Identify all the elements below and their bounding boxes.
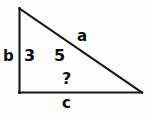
triangle-shape [0, 0, 151, 116]
label-value-3: 3 [24, 48, 35, 64]
label-side-c: c [62, 96, 71, 111]
label-unknown-question-mark: ? [62, 71, 71, 87]
triangle-hypotenuse [20, 9, 143, 93]
label-value-5: 5 [54, 48, 65, 64]
label-side-b: b [3, 49, 14, 64]
label-side-a: a [77, 29, 87, 44]
diagram-canvas: b 3 5 a ? c [0, 0, 151, 116]
